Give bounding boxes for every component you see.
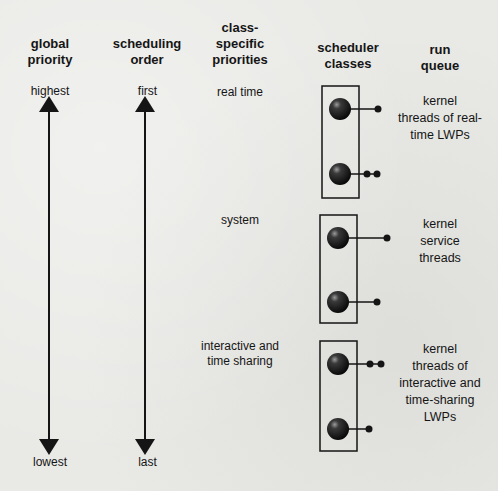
thread-ball-icon <box>327 291 349 313</box>
scheduler-class-real-time <box>322 86 382 198</box>
diagram-graphics <box>0 0 498 491</box>
thread-ball-icon <box>327 227 349 249</box>
scheduler-class-interactive <box>320 341 385 451</box>
thread-ball-icon <box>327 418 349 440</box>
thread-ball-icon <box>329 98 351 120</box>
scheduler-class-system <box>320 215 391 323</box>
thread-ball-icon <box>327 353 349 375</box>
thread-ball-icon <box>329 163 351 185</box>
